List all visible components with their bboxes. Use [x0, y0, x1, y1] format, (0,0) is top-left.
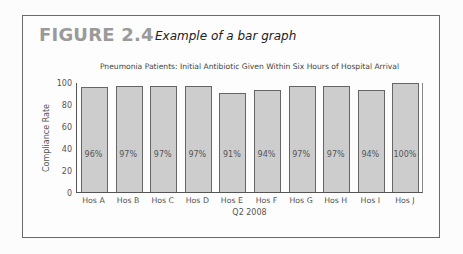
bar	[116, 86, 143, 192]
y-tick-label: 60	[50, 123, 72, 132]
figure-caption: Example of a bar graph	[155, 29, 296, 43]
bar	[323, 86, 350, 192]
bar	[219, 93, 246, 192]
y-tick-label: 20	[50, 167, 72, 176]
plot-area	[76, 83, 423, 193]
figure-label: FIGURE 2.4	[39, 24, 154, 45]
bar-value-label: 100%	[385, 150, 425, 159]
bar	[358, 90, 385, 192]
y-tick-label: 0	[50, 189, 72, 198]
y-tick-label: 40	[50, 145, 72, 154]
y-tick-label: 100	[50, 79, 72, 88]
bar	[81, 87, 108, 192]
bar	[392, 83, 419, 192]
bar	[150, 86, 177, 192]
y-tick-label: 80	[50, 101, 72, 110]
bar	[254, 90, 281, 192]
chart-title: Pneumonia Patients: Initial Antibiotic G…	[76, 62, 423, 71]
y-axis-label: Compliance Rate	[42, 104, 51, 172]
x-tick-label: Hos J	[385, 196, 425, 205]
bar	[289, 86, 316, 192]
bar	[185, 86, 212, 192]
x-axis-label: Q2 2008	[76, 208, 423, 217]
